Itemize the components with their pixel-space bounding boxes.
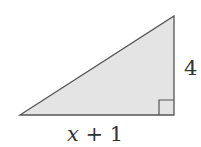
right-triangle-diagram: 4 x + 1 (0, 0, 201, 147)
side-label-base: x + 1 (67, 122, 123, 146)
triangle (20, 16, 174, 115)
base-variable: x (67, 122, 79, 146)
side-label-vertical: 4 (184, 56, 197, 80)
base-rest: + 1 (79, 122, 123, 146)
